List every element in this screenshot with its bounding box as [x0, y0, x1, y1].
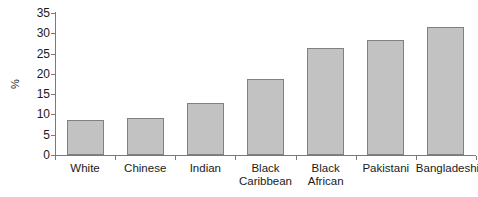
x-tick-label: Pakistani [356, 162, 416, 175]
x-tick-mark [235, 156, 236, 160]
bar [247, 79, 284, 155]
x-tick-mark [296, 156, 297, 160]
x-tick-mark [476, 156, 477, 160]
x-tick-mark [416, 156, 417, 160]
x-tick-mark [175, 156, 176, 160]
y-tick-mark [51, 74, 56, 75]
x-tick-label: Chinese [115, 162, 175, 175]
y-tick-mark [51, 94, 56, 95]
y-tick-mark [51, 114, 56, 115]
x-tick-label: Black Caribbean [235, 162, 295, 187]
y-tick-mark [51, 33, 56, 34]
bar [127, 118, 164, 155]
bar [187, 103, 224, 155]
x-tick-mark [55, 156, 56, 160]
x-tick-label: Indian [175, 162, 235, 175]
x-tick-mark [115, 156, 116, 160]
x-tick-label: Bangladeshi [416, 162, 476, 175]
y-tick-mark [51, 54, 56, 55]
bar-chart: % 05101520253035 WhiteChineseIndianBlack… [0, 0, 478, 197]
bar [67, 120, 104, 155]
x-tick-label: White [55, 162, 115, 175]
x-tick-mark [356, 156, 357, 160]
bar [307, 48, 344, 155]
x-tick-label: Black African [296, 162, 356, 187]
y-tick-mark [51, 135, 56, 136]
y-tick-mark [51, 13, 56, 14]
bar [367, 40, 404, 155]
bar [427, 27, 464, 155]
